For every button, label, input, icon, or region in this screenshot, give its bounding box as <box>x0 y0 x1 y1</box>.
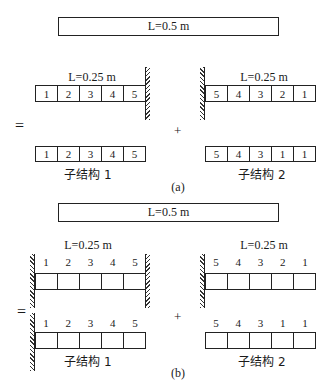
cell: 3 <box>80 86 102 101</box>
cell <box>294 333 315 348</box>
equals-sign: = <box>15 118 24 134</box>
cell: 3 <box>80 147 102 161</box>
cell <box>80 274 102 289</box>
cell <box>36 333 58 348</box>
substructure-1-b <box>35 332 146 349</box>
cell <box>272 333 294 348</box>
full-beam-a-label: L=0.5 m <box>148 19 189 34</box>
beam-b-left <box>35 273 146 290</box>
cell <box>80 333 102 348</box>
cell: 1 <box>294 86 315 101</box>
cell <box>36 274 58 289</box>
caption-sub1-a: 子结构 1 <box>64 165 111 182</box>
cell: 1 <box>36 147 58 161</box>
figure-label-b: (b) <box>171 366 185 381</box>
fixed-wall-icon <box>145 254 150 308</box>
cell <box>250 333 272 348</box>
cell: 4 <box>228 147 250 161</box>
length-label-a-left: L=0.25 m <box>68 70 115 85</box>
cell: 5 <box>124 147 145 161</box>
length-label-b-right: L=0.25 m <box>240 238 287 253</box>
figure-label-a: (a) <box>171 180 184 195</box>
beam-a-left: 1 2 3 4 5 <box>35 85 146 102</box>
cell <box>58 333 80 348</box>
substructure-2-b <box>205 332 316 349</box>
cell <box>102 333 124 348</box>
cell <box>228 333 250 348</box>
cell: 1 <box>294 147 315 161</box>
cell: 4 <box>228 86 250 101</box>
cell: 4 <box>102 147 124 161</box>
length-label-a-right: L=0.25 m <box>240 70 287 85</box>
cell <box>124 333 145 348</box>
plus-sign: + <box>174 124 181 137</box>
cell <box>206 333 228 348</box>
node-labels-b-left: 1 2 3 4 5 <box>35 256 146 268</box>
beam-a-right: 5 4 3 2 1 <box>205 85 316 102</box>
cell: 2 <box>58 147 80 161</box>
cell: 5 <box>124 86 145 101</box>
plus-sign: + <box>174 310 181 323</box>
full-beam-b-label: L=0.5 m <box>148 205 189 220</box>
substructure-2-a: 5 4 3 1 1 <box>205 146 316 162</box>
substructure-1-a: 1 2 3 4 5 <box>35 146 146 162</box>
node-labels-b-sub1: 1 2 3 4 5 <box>35 317 146 329</box>
full-beam-b: L=0.5 m <box>58 203 279 222</box>
equals-sign: = <box>17 304 26 320</box>
cell: 3 <box>250 86 272 101</box>
cell: 2 <box>58 86 80 101</box>
node-labels-b-right: 5 4 3 2 1 <box>205 256 316 268</box>
beam-b-right <box>205 273 316 290</box>
cell: 2 <box>272 86 294 101</box>
cell: 3 <box>250 147 272 161</box>
fixed-wall-icon <box>145 67 150 120</box>
cell <box>272 274 294 289</box>
length-label-b-left: L=0.25 m <box>64 238 111 253</box>
cell <box>58 274 80 289</box>
node-labels-b-sub2: 5 4 3 1 1 <box>205 317 316 329</box>
cell <box>124 274 145 289</box>
cell: 5 <box>206 147 228 161</box>
cell <box>102 274 124 289</box>
full-beam-a: L=0.5 m <box>58 17 279 36</box>
caption-sub1-b: 子结构 1 <box>64 352 111 369</box>
cell <box>206 274 228 289</box>
cell <box>250 274 272 289</box>
cell: 1 <box>36 86 58 101</box>
caption-sub2-b: 子结构 2 <box>238 352 285 369</box>
cell: 4 <box>102 86 124 101</box>
cell: 5 <box>206 86 228 101</box>
cell <box>294 274 315 289</box>
caption-sub2-a: 子结构 2 <box>238 165 285 182</box>
cell <box>228 274 250 289</box>
cell: 1 <box>272 147 294 161</box>
